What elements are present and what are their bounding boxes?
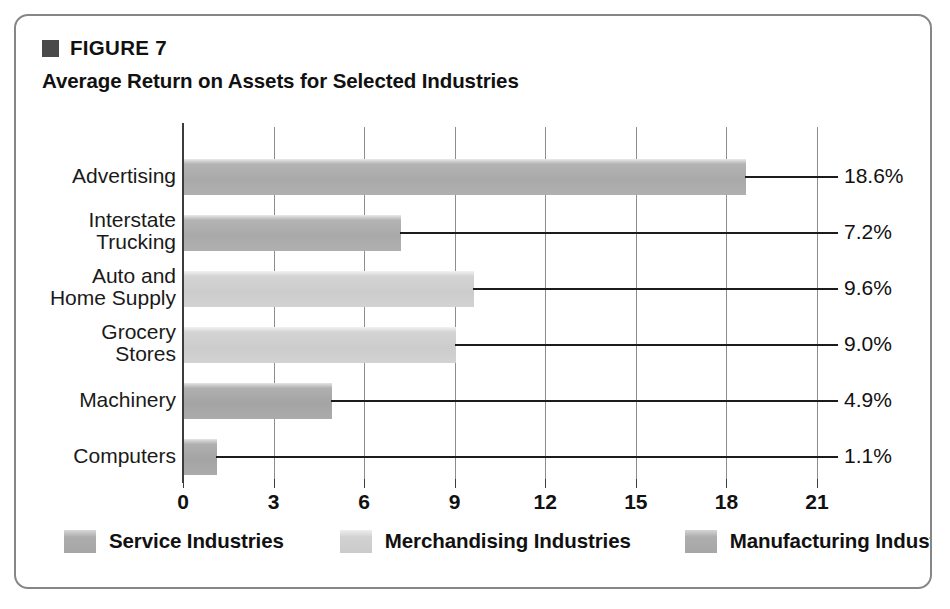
value-leader-line — [455, 344, 838, 346]
x-axis-tick-label: 3 — [254, 490, 294, 514]
value-leader-line — [216, 456, 838, 458]
value-label: 1.1% — [844, 444, 892, 468]
value-label: 7.2% — [844, 220, 892, 244]
x-axis-tick-label: 6 — [344, 490, 384, 514]
x-axis-tick — [726, 479, 727, 488]
legend-item-service[interactable]: Service Industries — [64, 529, 284, 553]
value-leader-line — [331, 400, 838, 402]
legend-swatch-icon — [340, 530, 372, 553]
x-axis-tick-label: 9 — [435, 490, 475, 514]
x-axis-tick — [817, 479, 818, 488]
chart-legend: Service IndustriesMerchandising Industri… — [42, 521, 908, 561]
legend-swatch-icon — [685, 530, 717, 553]
bar — [184, 215, 401, 251]
x-axis-tick — [545, 479, 546, 488]
bar — [184, 159, 746, 195]
value-leader-line — [745, 176, 838, 178]
chart-plot-area: 036912151821 18.6%7.2%9.6%9.0%4.9%1.1% A… — [16, 16, 932, 589]
value-label: 9.6% — [844, 276, 892, 300]
value-leader-line — [473, 288, 838, 290]
x-axis-tick — [183, 479, 184, 488]
x-axis-tick — [364, 479, 365, 488]
x-axis-tick-label: 15 — [616, 490, 656, 514]
bar — [184, 271, 474, 307]
category-label: Auto andHome Supply — [28, 265, 176, 310]
category-label: GroceryStores — [28, 321, 176, 366]
x-axis-tick-label: 18 — [706, 490, 746, 514]
value-label: 9.0% — [844, 332, 892, 356]
value-label: 4.9% — [844, 388, 892, 412]
x-axis-tick — [274, 479, 275, 488]
x-axis-tick-label: 12 — [525, 490, 565, 514]
legend-swatch-icon — [64, 530, 96, 553]
bar — [184, 383, 332, 419]
x-axis-tick — [455, 479, 456, 488]
bar — [184, 439, 217, 475]
legend-item-manuf[interactable]: Manufacturing Industries — [685, 529, 932, 553]
category-label: Computers — [28, 445, 176, 467]
bar — [184, 327, 456, 363]
legend-label: Manufacturing Industries — [730, 529, 932, 553]
figure-frame: FIGURE 7 Average Return on Assets for Se… — [14, 14, 932, 589]
legend-item-merch[interactable]: Merchandising Industries — [340, 529, 631, 553]
gridline — [817, 127, 818, 479]
legend-label: Service Industries — [109, 529, 284, 553]
category-axis-labels: AdvertisingInterstateTruckingAuto andHom… — [24, 16, 176, 589]
category-label: InterstateTrucking — [28, 209, 176, 254]
x-axis-tick — [636, 479, 637, 488]
value-label: 18.6% — [844, 164, 904, 188]
category-label: Advertising — [28, 165, 176, 187]
legend-label: Merchandising Industries — [385, 529, 631, 553]
value-leader-line — [400, 232, 838, 234]
category-label: Machinery — [28, 389, 176, 411]
x-axis-tick-label: 21 — [797, 490, 837, 514]
